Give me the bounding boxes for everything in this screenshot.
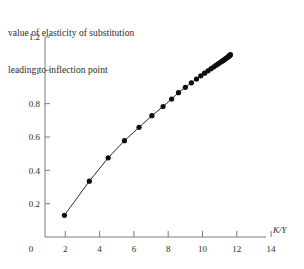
y-tick-label: 0.8 — [29, 99, 41, 109]
data-point — [169, 96, 174, 101]
y-tick-label: 1.2 — [29, 32, 40, 42]
x-tick-label: 12 — [232, 244, 241, 254]
y-tick-label: 0.2 — [29, 199, 40, 209]
data-point — [194, 76, 199, 81]
x-tick-label: 4 — [97, 244, 102, 254]
data-point — [189, 80, 194, 85]
x-tick-label: 0 — [29, 244, 34, 254]
data-point — [106, 155, 111, 160]
y-axis-tick-labels: 0.20.40.60.811.2 — [29, 32, 41, 209]
series-markers — [62, 52, 233, 218]
data-point — [228, 52, 233, 57]
y-tick-label: 1 — [36, 66, 41, 76]
x-tick-label: 2 — [63, 244, 68, 254]
data-point — [149, 113, 154, 118]
x-tick-label: 6 — [132, 244, 137, 254]
data-point — [62, 213, 67, 218]
series-line — [64, 55, 230, 216]
data-point — [160, 104, 165, 109]
data-point — [176, 90, 181, 95]
x-tick-label: 10 — [198, 244, 208, 254]
chart-figure: value of elasticity of substitution lead… — [0, 0, 304, 269]
y-tick-label: 0.6 — [29, 132, 41, 142]
chart-plot-area: 0.20.40.60.811.2 02468101214 K/Y — [0, 0, 304, 269]
data-point — [122, 138, 127, 143]
data-point — [87, 179, 92, 184]
y-axis-ticks — [45, 37, 50, 204]
x-tick-label: 8 — [166, 244, 171, 254]
x-axis-title: K/Y — [272, 225, 288, 235]
x-axis-ticks — [65, 231, 271, 237]
data-point — [136, 125, 141, 130]
x-axis-tick-labels: 02468101214 — [29, 244, 276, 254]
y-tick-label: 0.4 — [29, 166, 41, 176]
x-tick-label: 14 — [267, 244, 277, 254]
data-point — [183, 85, 188, 90]
